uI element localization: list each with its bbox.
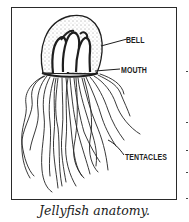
tentacles	[22, 74, 140, 192]
figure-caption: Jellyfish anatomy.	[0, 205, 189, 218]
mouth-label: MOUTH	[121, 66, 147, 75]
bell-label: BELL	[126, 36, 145, 45]
jellyfish-illustration	[0, 0, 189, 222]
edge-marks	[186, 71, 188, 199]
tentacles-label: TENTACLES	[125, 153, 167, 162]
bell-shape	[41, 15, 102, 76]
